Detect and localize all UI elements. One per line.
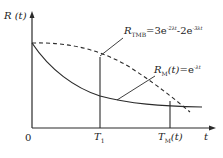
x-axis-arrow-icon: [209, 126, 216, 131]
origin-label: 0: [25, 132, 31, 143]
tick-t1: T1: [94, 131, 105, 144]
leader-r-m: [117, 76, 155, 100]
label-r-tmb: RTMB=3e-2λt-2e-3λt: [124, 25, 203, 38]
curve-r-tmb: [32, 43, 190, 112]
y-axis-label: R (t): [4, 10, 27, 21]
x-axis-label: t: [204, 131, 208, 142]
tick-tm: TM(t): [158, 131, 183, 144]
label-r-m: RM(t)=e-λt: [154, 64, 201, 77]
reliability-diagram: [0, 0, 223, 158]
y-axis-arrow-icon: [30, 11, 35, 18]
leader-r-tmb: [100, 38, 123, 56]
